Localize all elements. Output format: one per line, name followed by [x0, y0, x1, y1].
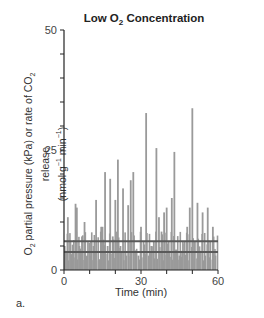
- data-bar: [176, 256, 178, 270]
- data-bar: [179, 256, 181, 270]
- data-bar: [120, 246, 122, 270]
- data-bar: [153, 241, 155, 270]
- data-bar: [93, 246, 95, 270]
- data-bar: [186, 227, 188, 270]
- data-bar: [168, 251, 170, 270]
- data-bar: [148, 256, 150, 270]
- data-bar: [135, 251, 137, 270]
- data-bar: [166, 208, 168, 270]
- data-bar: [181, 251, 183, 270]
- data-bar: [207, 208, 209, 270]
- data-bar: [132, 172, 134, 270]
- data-bar: [191, 108, 193, 270]
- data-bar: [76, 208, 78, 270]
- data-bar: [212, 227, 214, 270]
- data-bar: [184, 241, 186, 270]
- data-bar: [79, 246, 81, 270]
- data-bar: [98, 260, 100, 270]
- data-bar: [90, 241, 92, 270]
- data-bar: [197, 203, 199, 270]
- data-bar: [204, 256, 206, 270]
- data-bar: [107, 246, 109, 270]
- data-bar: [150, 246, 152, 270]
- data-bar: [189, 208, 191, 270]
- panel-label: a.: [16, 297, 25, 309]
- data-bar: [95, 200, 97, 270]
- y-tick-label: 50: [45, 24, 57, 36]
- data-bar: [215, 256, 217, 270]
- y-tick-label: 25: [45, 144, 57, 156]
- data-bar: [199, 251, 201, 270]
- data-bar: [209, 241, 211, 270]
- data-bar: [86, 256, 88, 270]
- data-bar: [171, 198, 173, 270]
- data-bar: [143, 241, 145, 270]
- data-bar: [114, 200, 116, 270]
- data-bar: [109, 179, 111, 270]
- data-bar: [122, 188, 124, 270]
- plot-area: 0255003060: [0, 0, 264, 318]
- data-bar: [64, 251, 66, 270]
- data-bar: [102, 227, 104, 270]
- data-bar: [125, 251, 127, 270]
- data-bar: [158, 217, 160, 270]
- data-bar: [67, 217, 69, 270]
- data-bar: [138, 256, 140, 270]
- data-bar: [194, 241, 196, 270]
- x-axis-label: Time (min): [64, 286, 218, 298]
- data-bar: [130, 180, 132, 270]
- y-tick-label: 0: [51, 264, 57, 276]
- data-bar: [117, 160, 119, 270]
- data-bar: [70, 241, 72, 270]
- data-bar: [127, 205, 129, 270]
- data-bar: [145, 113, 147, 270]
- data-bar: [140, 227, 142, 270]
- data-bar: [104, 172, 106, 270]
- data-bar: [72, 260, 74, 270]
- data-bar: [161, 232, 163, 270]
- data-bar: [84, 222, 86, 270]
